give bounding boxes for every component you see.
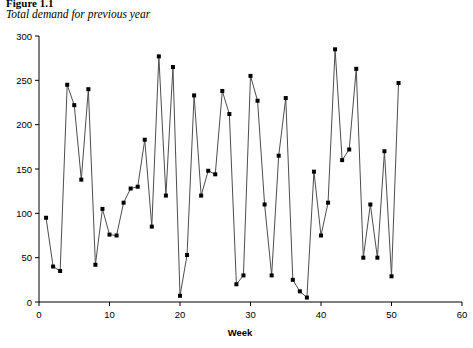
- data-point: [382, 149, 386, 153]
- data-point: [213, 172, 217, 176]
- data-point: [397, 81, 401, 85]
- svg-text:250: 250: [16, 75, 32, 86]
- data-point: [319, 234, 323, 238]
- data-point: [164, 194, 168, 198]
- data-point: [185, 253, 189, 257]
- data-point: [361, 256, 365, 260]
- data-point: [136, 185, 140, 189]
- data-point: [256, 99, 260, 103]
- data-point: [44, 216, 48, 220]
- data-point: [227, 112, 231, 116]
- data-point: [115, 234, 119, 238]
- data-point: [58, 269, 62, 273]
- data-point: [249, 74, 253, 78]
- data-point: [340, 158, 344, 162]
- data-point: [284, 96, 288, 100]
- svg-text:200: 200: [16, 119, 32, 130]
- data-point: [291, 278, 295, 282]
- data-point: [375, 256, 379, 260]
- data-point: [122, 201, 126, 205]
- y-axis: 050100150200250300: [16, 31, 39, 308]
- data-point: [199, 194, 203, 198]
- data-point: [192, 93, 196, 97]
- data-point: [171, 65, 175, 69]
- data-point: [93, 263, 97, 267]
- data-point-markers: [44, 47, 401, 299]
- svg-text:0: 0: [27, 297, 32, 308]
- data-point: [270, 273, 274, 277]
- svg-text:100: 100: [16, 208, 32, 219]
- data-point: [354, 67, 358, 71]
- data-point: [333, 47, 337, 51]
- svg-text:300: 300: [16, 31, 32, 42]
- svg-text:20: 20: [175, 309, 186, 320]
- data-point: [100, 207, 104, 211]
- data-point: [150, 225, 154, 229]
- svg-text:50: 50: [386, 309, 397, 320]
- x-axis: 0102030405060: [36, 302, 467, 320]
- svg-text:150: 150: [16, 164, 32, 175]
- data-point: [79, 178, 83, 182]
- data-point: [234, 282, 238, 286]
- svg-text:10: 10: [104, 309, 115, 320]
- data-point: [72, 103, 76, 107]
- data-point: [263, 202, 267, 206]
- data-point: [241, 273, 245, 277]
- svg-text:0: 0: [36, 309, 41, 320]
- data-point: [108, 233, 112, 237]
- x-axis-title: Week: [228, 327, 253, 338]
- data-point: [368, 202, 372, 206]
- data-point: [86, 87, 90, 91]
- data-point: [220, 89, 224, 93]
- data-point: [51, 265, 55, 269]
- data-point: [305, 296, 309, 300]
- data-point: [312, 170, 316, 174]
- data-point: [65, 83, 69, 87]
- data-point: [129, 187, 133, 191]
- svg-text:30: 30: [245, 309, 256, 320]
- data-point: [390, 274, 394, 278]
- data-point: [326, 201, 330, 205]
- data-point: [347, 147, 351, 151]
- data-point: [143, 138, 147, 142]
- data-point: [298, 289, 302, 293]
- data-point: [178, 294, 182, 298]
- data-point: [157, 54, 161, 58]
- data-point: [206, 169, 210, 173]
- demand-line-chart: 050100150200250300 0102030405060 Week: [0, 0, 473, 348]
- svg-text:50: 50: [21, 252, 32, 263]
- svg-text:60: 60: [457, 309, 468, 320]
- svg-text:40: 40: [316, 309, 327, 320]
- data-point: [277, 154, 281, 158]
- series-line-total-demand: [46, 49, 399, 297]
